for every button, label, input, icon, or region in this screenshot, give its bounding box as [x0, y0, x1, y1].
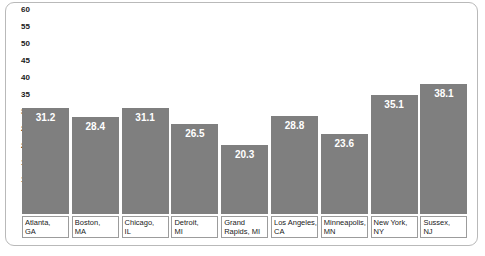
x-axis-category-box: Chicago,IL — [122, 216, 169, 238]
bar-value-label: 31.2 — [22, 112, 69, 123]
bar-chart: 60555045403530252015105 31.228.431.126.5… — [0, 0, 485, 256]
bar — [371, 95, 418, 214]
bar — [122, 108, 169, 214]
x-axis-category-label: Chicago, — [125, 219, 168, 228]
x-axis-category-label: GA — [25, 228, 68, 237]
x-axis-category-box: Sussex,NJ — [420, 216, 467, 238]
x-axis-category-box: New York,NY — [371, 216, 418, 238]
x-axis-category-box: Detroit,MI — [171, 216, 218, 238]
y-axis-tick-label: 50 — [10, 40, 30, 48]
bar-value-label: 26.5 — [171, 128, 218, 139]
bar — [420, 84, 467, 214]
y-axis-tick-label: 40 — [10, 74, 30, 82]
bar — [22, 108, 69, 214]
y-axis-tick-label: 45 — [10, 57, 30, 65]
bar-value-label: 28.8 — [271, 120, 318, 131]
bar-value-label: 35.1 — [371, 99, 418, 110]
x-axis-category-label: CA — [274, 228, 317, 237]
x-axis-category-box: Los Angeles,CA — [271, 216, 318, 238]
x-axis-category-label: Rapids, MI — [224, 228, 267, 237]
y-axis-tick-label: 60 — [10, 6, 30, 14]
bar-value-label: 23.6 — [321, 138, 368, 149]
bar-value-label: 38.1 — [420, 88, 467, 99]
y-axis-tick-label: 35 — [10, 91, 30, 99]
x-axis-category-label: NJ — [423, 228, 466, 237]
x-axis-category-label: IL — [125, 228, 168, 237]
x-axis-category-box: Boston,MA — [72, 216, 119, 238]
bar-value-label: 28.4 — [72, 121, 119, 132]
x-axis-category-label: NY — [374, 228, 417, 237]
x-axis-category-label: MA — [75, 228, 118, 237]
x-axis-category-label: MN — [324, 228, 367, 237]
x-axis-category-box: Atlanta,GA — [22, 216, 69, 238]
x-axis-category-box: GrandRapids, MI — [221, 216, 268, 238]
x-axis-category-box: Minneapolis,MN — [321, 216, 368, 238]
y-axis-tick-label: 55 — [10, 23, 30, 31]
x-axis-category-label: MI — [174, 228, 217, 237]
bar-value-label: 31.1 — [122, 112, 169, 123]
bar-value-label: 20.3 — [221, 149, 268, 160]
